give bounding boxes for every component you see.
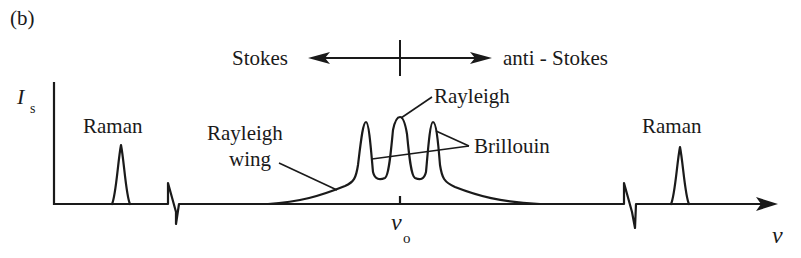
brillouin-label: Brillouin [474, 134, 550, 158]
y-axis-label-sub: s [30, 101, 35, 116]
y-axis-label: I s [16, 84, 35, 116]
rayleigh-leader-line [401, 97, 432, 118]
raman-peak-right [671, 147, 689, 204]
axis-break-left-icon [168, 183, 180, 224]
center-frequency-main: ν [391, 209, 402, 235]
raman-label-right: Raman [642, 114, 702, 138]
rayleigh-wing-label-line2: wing [229, 147, 272, 171]
axis-break-right-icon [624, 183, 638, 228]
panel-label: (b) [10, 6, 35, 30]
raman-peak-left [112, 145, 130, 204]
rayleigh-label: Rayleigh [434, 84, 510, 108]
x-axis-label: ν [772, 222, 783, 248]
direction-indicator: Stokes anti - Stokes [232, 40, 608, 76]
center-frequency-label: ν o [391, 209, 411, 246]
rayleigh-wing-label-line1: Rayleigh [207, 121, 283, 145]
stokes-label: Stokes [232, 46, 288, 70]
anti-stokes-label: anti - Stokes [503, 46, 608, 70]
y-axis-label-main: I [16, 84, 26, 109]
brillouin-leader-line-right [436, 131, 469, 146]
brillouin-leader-line-left [372, 146, 469, 159]
raman-label-left: Raman [83, 114, 143, 138]
scattering-spectrum-diagram: (b) Stokes anti - Stokes I s ν ν o Raman [0, 0, 801, 258]
center-frequency-sub: o [403, 230, 411, 246]
rayleigh-wing-leader-line [279, 163, 337, 190]
x-axis [53, 183, 778, 228]
rayleigh-brillouin-spectrum [268, 117, 540, 204]
